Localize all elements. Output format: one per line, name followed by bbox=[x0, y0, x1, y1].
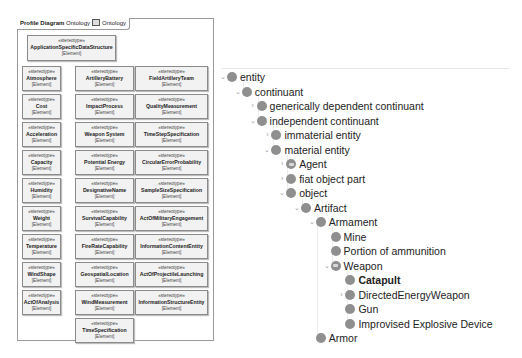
class-icon bbox=[301, 203, 311, 213]
stereotype-name: GeospatialLocation bbox=[76, 271, 133, 278]
tree-node-label: DirectedEnergyWeapon bbox=[358, 288, 469, 302]
stereotype-box[interactable]: «stereotype»InformationStructureEntity[E… bbox=[135, 290, 208, 315]
tree-node-label: entity bbox=[240, 70, 265, 84]
stereotype-box[interactable]: «stereotype»Weapon System[Element] bbox=[75, 122, 134, 147]
stereotype-box[interactable]: «stereotype»CircularErrorProbability[Ele… bbox=[135, 150, 208, 175]
tree-node-label: continuant bbox=[255, 85, 303, 99]
stereotype-name: Weapon System bbox=[76, 131, 133, 138]
tree-node-label: Artifact bbox=[314, 201, 347, 215]
stereotype-box[interactable]: «stereotype»WindShape[Element] bbox=[22, 262, 61, 287]
stereotype-name: DesignativeName bbox=[76, 187, 133, 194]
stereotype-name: Acceleration bbox=[23, 131, 60, 138]
stereotype-box[interactable]: «stereotype»Potential Energy[Element] bbox=[75, 150, 134, 175]
stereotype-box[interactable]: «stereotype»Capacity[Element] bbox=[22, 150, 61, 175]
stereotype-box[interactable]: «stereotype»InformationContentEntity[Ele… bbox=[135, 234, 208, 259]
class-icon bbox=[331, 232, 341, 242]
class-icon bbox=[345, 304, 355, 314]
stereotype-name: TimeSpecification bbox=[76, 327, 133, 334]
stereotype-metaclass: [Element] bbox=[136, 278, 207, 284]
stereotype-box[interactable]: «stereotype»ActOfProjectileLaunching[Ele… bbox=[135, 262, 208, 287]
stereotype-metaclass: [Element] bbox=[136, 110, 207, 116]
stereotype-metaclass: [Element] bbox=[23, 278, 60, 284]
class-icon bbox=[286, 188, 296, 198]
tree-node-label: generically dependent continuant bbox=[270, 99, 424, 113]
stereotype-name: SampleSizeSpecification bbox=[136, 187, 207, 194]
stereotype-metaclass: [Element] bbox=[76, 334, 133, 340]
class-icon bbox=[286, 174, 296, 184]
stereotype-metaclass: [Element] bbox=[76, 110, 133, 116]
stereotype-box[interactable]: «stereotype»SampleSizeSpecification[Elem… bbox=[135, 178, 208, 203]
diagram-name-label: Ontology bbox=[66, 20, 90, 26]
stereotype-name: TimeStepSpecification bbox=[136, 131, 207, 138]
stereotype-box-root[interactable]: «stereotype» ApplicationSpecificDataStru… bbox=[27, 35, 116, 61]
defined-class-icon bbox=[331, 261, 341, 271]
tree-node-label: material entity bbox=[284, 143, 349, 157]
tree-node-label: fiat object part bbox=[299, 172, 365, 186]
stereotype-metaclass: [Element] bbox=[23, 138, 60, 144]
stereotype-box[interactable]: «stereotype»Acceleration[Element] bbox=[22, 122, 61, 147]
stereotype-box[interactable]: «stereotype»FireRateCapability[Element] bbox=[75, 234, 134, 259]
stereotype-box[interactable]: «stereotype»WindMeasurement[Element] bbox=[75, 290, 134, 315]
tree-node-label: Agent bbox=[299, 157, 326, 171]
stereotype-box[interactable]: «stereotype»ActOfMilitaryEngagement[Elem… bbox=[135, 206, 208, 231]
stereotype-metaclass: [Element] bbox=[23, 250, 60, 256]
stereotype-box[interactable]: «stereotype»SurvivalCapability[Element] bbox=[75, 206, 134, 231]
stereotype-box[interactable]: «stereotype»TimeStepSpecification[Elemen… bbox=[135, 122, 208, 147]
stereotype-metaclass: [Element] bbox=[136, 82, 207, 88]
stereotype-metaclass: [Element] bbox=[136, 250, 207, 256]
diagram-tab-header: Profile Diagram OntologyOntology bbox=[17, 18, 130, 30]
stereotype-metaclass: [Element] bbox=[136, 138, 207, 144]
stereotype-box[interactable]: «stereotype»Cost[Element] bbox=[22, 94, 61, 119]
stereotype-metaclass: [Element] bbox=[23, 82, 60, 88]
tree-node-label: Portion of ammunition bbox=[344, 244, 446, 258]
stereotype-metaclass: [Element] bbox=[76, 82, 133, 88]
stereotype-name: ActOfProjectileLaunching bbox=[136, 271, 207, 278]
stereotype-metaclass: [Element] bbox=[23, 306, 60, 312]
stereotype-name: WindMeasurement bbox=[76, 299, 133, 306]
stereotype-box[interactable]: «stereotype»Weight[Element] bbox=[22, 206, 61, 231]
tree-node-label: Armament bbox=[329, 215, 377, 229]
package-icon bbox=[92, 19, 100, 26]
class-icon bbox=[257, 116, 267, 126]
stereotype-name: Temperature bbox=[23, 243, 60, 250]
tree-node-label: Improvised Explosive Device bbox=[358, 317, 492, 331]
stereotype-box[interactable]: «stereotype»TimeSpecification[Element] bbox=[75, 318, 134, 343]
stereotype-box[interactable]: «stereotype»QualityMeasurement[Element] bbox=[135, 94, 208, 119]
diagram-package-label: Ontology bbox=[102, 20, 126, 26]
stereotype-name: CircularErrorProbability bbox=[136, 159, 207, 166]
class-icon bbox=[271, 130, 281, 140]
tree-node-label: Weapon bbox=[344, 259, 383, 273]
tree-guide-line bbox=[317, 213, 318, 339]
stereotype-box[interactable]: «stereotype»ArtilleryBattery[Element] bbox=[75, 66, 134, 91]
stereotype-name: SurvivalCapability bbox=[76, 215, 133, 222]
stereotype-name: Atmosphere bbox=[23, 75, 60, 82]
tree-node-label: object bbox=[299, 186, 327, 200]
class-icon bbox=[316, 217, 326, 227]
stereotype-box[interactable]: «stereotype»GeospatialLocation[Element] bbox=[75, 262, 134, 287]
stereotype-box[interactable]: «stereotype»FieldArtilleryTeam[Element] bbox=[135, 66, 208, 91]
stereotype-metaclass: [Element] bbox=[76, 138, 133, 144]
class-icon bbox=[316, 333, 326, 343]
stereotype-metaclass: [Element] bbox=[76, 166, 133, 172]
stereotype-metaclass: [Element] bbox=[76, 250, 133, 256]
stereotype-box[interactable]: «stereotype»ImpactProcess[Element] bbox=[75, 94, 134, 119]
stereotype-box[interactable]: «stereotype»ActOfAnalysis[Element] bbox=[22, 290, 61, 315]
stereotype-box[interactable]: «stereotype»Temperature[Element] bbox=[22, 234, 61, 259]
stereotype-box[interactable]: «stereotype»DesignativeName[Element] bbox=[75, 178, 134, 203]
class-icon bbox=[345, 319, 355, 329]
stereotype-metaclass: [Element] bbox=[76, 306, 133, 312]
stereotype-metaclass: [Element] bbox=[28, 51, 115, 57]
stereotype-metaclass: [Element] bbox=[76, 278, 133, 284]
stereotype-name: InformationStructureEntity bbox=[136, 299, 207, 306]
stereotype-box[interactable]: «stereotype»Humidity[Element] bbox=[22, 178, 61, 203]
stereotype-metaclass: [Element] bbox=[136, 222, 207, 228]
tree-node-label: Gun bbox=[358, 302, 378, 316]
class-icon bbox=[331, 246, 341, 256]
class-icon bbox=[242, 87, 252, 97]
tree-node-label: Mine bbox=[344, 230, 367, 244]
stereotype-box[interactable]: «stereotype»Atmosphere[Element] bbox=[22, 66, 61, 91]
stereotype-metaclass: [Element] bbox=[136, 194, 207, 200]
class-icon bbox=[271, 145, 281, 155]
stereotype-name: QualityMeasurement bbox=[136, 103, 207, 110]
stereotype-name: ActOfMilitaryEngagement bbox=[136, 215, 207, 222]
